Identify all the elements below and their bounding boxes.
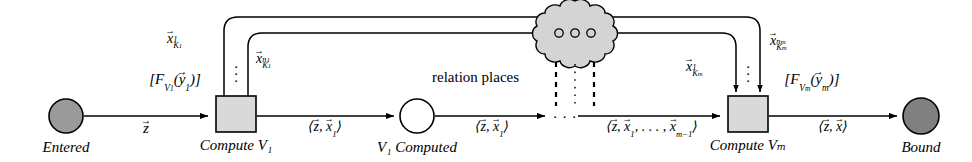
transition-compute-v1[interactable] <box>216 96 256 132</box>
gap-horizontal-ellipsis: . . . <box>553 106 577 121</box>
place-label-v1-computed: V₁ Computed <box>377 140 457 155</box>
place-label-bound: Bound <box>901 140 940 155</box>
cloud-dashed-drops <box>556 62 594 106</box>
output-label-v1-last: xn1K1 <box>256 52 283 66</box>
output-label-vm-last: xnmKm <box>770 34 800 48</box>
place-label-entered: Entered <box>43 140 90 155</box>
guard-label-vm: [FVm(ym)] <box>784 72 839 87</box>
arc-label-computed-to-gap: ⟨z, x1⟩ <box>475 120 509 134</box>
arc-label-v1-to-computed: ⟨z, x1⟩ <box>308 120 342 134</box>
output-label-v1-first: x1K1 <box>167 32 183 46</box>
place-entered[interactable] <box>49 99 83 133</box>
transition-compute-vm[interactable] <box>728 96 768 132</box>
vertical-ellipsis-v1: ... <box>234 60 238 81</box>
place-v1-computed[interactable] <box>400 99 434 133</box>
relation-places-cloud <box>533 0 618 68</box>
transition-label-compute-v1: Compute V₁ <box>200 138 272 153</box>
arc-label-entered-to-v1: z <box>143 121 149 136</box>
guard-label-v1: [FV1(y1)] <box>149 72 201 87</box>
figure-canvas: Entered V₁ Computed Bound Compute V₁ Com… <box>0 0 972 162</box>
place-bound[interactable] <box>903 98 939 134</box>
arc-label-gap-to-vm: ⟨z, x1, . . . , xm−1⟩ <box>606 120 698 134</box>
cloud-label-relation-places: relation places <box>432 70 519 85</box>
output-label-vm-first: x1Km <box>686 60 702 74</box>
vertical-ellipsis-vm: ... <box>746 60 750 81</box>
arc-label-vm-to-bound: ⟨z, x⟩ <box>818 120 848 134</box>
transition-label-compute-vm: Compute Vₘ <box>710 138 786 153</box>
